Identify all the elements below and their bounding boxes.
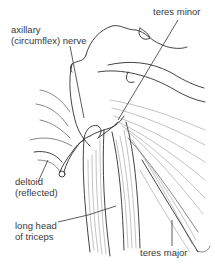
label-deltoid-line1: deltoid [15, 176, 58, 187]
axillary-nerve [59, 116, 124, 177]
label-triceps: long head of triceps [15, 220, 57, 242]
label-deltoid: deltoid (reflected) [15, 176, 58, 198]
triceps-long-head [83, 130, 110, 256]
label-axillary-line1: axillary [11, 24, 87, 35]
label-triceps-line2: of triceps [15, 231, 57, 242]
label-deltoid-line2: (reflected) [15, 187, 58, 198]
triceps-lateral-band [112, 122, 140, 250]
label-axillary-nerve: axillary (circumflex) nerve [11, 24, 87, 46]
label-teres-major: teres major [140, 247, 188, 258]
label-triceps-line1: long head [15, 220, 57, 231]
teres-fibers [110, 100, 210, 252]
label-axillary-line2: (circumflex) nerve [11, 35, 87, 46]
scapula-outline [71, 26, 206, 102]
leader-lines [38, 20, 178, 246]
label-teres-minor: teres minor [153, 6, 201, 17]
deltoid-reflected [30, 64, 90, 172]
